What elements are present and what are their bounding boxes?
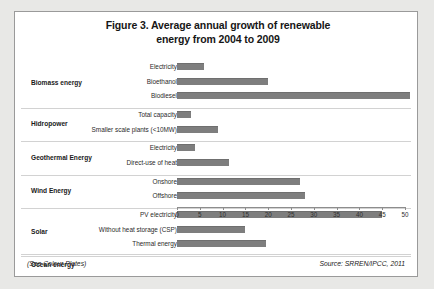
x-axis-tick-label: 10 — [219, 211, 226, 218]
x-axis-tick — [245, 207, 246, 210]
bar-row: Offshore — [15, 191, 417, 200]
bar-track — [177, 126, 218, 133]
group-divider — [21, 208, 411, 209]
x-axis-tick-label: 15 — [242, 211, 249, 218]
bar-row: Thermal energy — [15, 239, 417, 248]
x-axis-tick-label: 20 — [265, 211, 272, 218]
bar-track — [177, 240, 266, 247]
x-axis-tick-label: 30 — [310, 211, 317, 218]
bar-row: Electricity — [15, 62, 417, 71]
bar-row: Without heat storage (CSP) — [15, 225, 417, 234]
bar-row: Total capacity — [15, 110, 417, 119]
bar-category-label: Onshore — [17, 177, 177, 186]
bar-track — [177, 226, 245, 233]
footer-divider — [21, 254, 411, 255]
bar-fill — [177, 178, 300, 185]
bar-row: Electricity — [15, 143, 417, 152]
bar-track — [177, 63, 204, 70]
group-label: Wind Energy — [31, 187, 71, 194]
x-axis-tick — [405, 207, 406, 210]
bar-row: Biodiesel — [15, 91, 417, 100]
group-label: Hidropower — [31, 120, 68, 127]
bar-fill — [177, 226, 245, 233]
bar-category-label: Thermal energy — [17, 239, 177, 248]
bar-fill — [177, 211, 382, 218]
bar-track — [177, 211, 382, 218]
source-note: Source: SRREN/IPCC, 2011 — [319, 260, 405, 267]
group-label: Geothermal Energy — [31, 154, 92, 161]
bar-fill — [177, 192, 305, 199]
bar-track — [177, 192, 305, 199]
see-colour-plates-note: (See Colour Plates) — [27, 260, 86, 267]
bar-category-label: PV electricity — [17, 210, 177, 219]
bar-category-label: Total capacity — [17, 110, 177, 119]
figure-title-line-2: energy from 2004 to 2009 — [63, 32, 373, 46]
group-divider — [21, 141, 411, 142]
group-divider — [21, 108, 411, 109]
bar-category-label: Electricity — [17, 143, 177, 152]
chart-plot-area: ElectricityBioethanolBiodieselBiomass en… — [15, 56, 417, 252]
bar-category-label: Biodiesel — [17, 91, 177, 100]
bar-row: Onshore — [15, 177, 417, 186]
figure-title: Figure 3. Average annual growth of renew… — [63, 18, 373, 46]
figure-title-line-1: Figure 3. Average annual growth of renew… — [63, 18, 373, 32]
group-label: Biomass energy — [31, 79, 82, 86]
group-divider — [21, 256, 411, 257]
bar-track — [177, 111, 191, 118]
bar-fill — [177, 159, 229, 166]
bar-track — [177, 78, 268, 85]
x-axis-tick-label: 5 — [198, 211, 202, 218]
x-axis-tick — [382, 207, 383, 210]
x-axis-tick — [177, 207, 178, 210]
x-axis-tick — [359, 207, 360, 210]
x-axis-tick-label: 45 — [379, 211, 386, 218]
x-axis-tick-label: 35 — [333, 211, 340, 218]
x-axis-tick — [268, 207, 269, 210]
x-axis-tick-label: 40 — [356, 211, 363, 218]
bar-category-label: Electricity — [17, 62, 177, 71]
bar-fill — [177, 92, 410, 99]
bar-track — [177, 144, 195, 151]
bar-fill — [177, 78, 268, 85]
x-axis: 05101520253035404550 — [177, 207, 405, 208]
group-label: Solar — [31, 228, 48, 235]
bar-fill — [177, 63, 204, 70]
group-divider — [21, 175, 411, 176]
bar-track — [177, 159, 229, 166]
bar-fill — [177, 111, 191, 118]
x-axis-tick-label: 50 — [401, 211, 408, 218]
x-axis-tick-label: 25 — [287, 211, 294, 218]
x-axis-tick-label: 0 — [175, 211, 179, 218]
x-axis-tick — [291, 207, 292, 210]
bar-fill — [177, 144, 195, 151]
figure-frame: Figure 3. Average annual growth of renew… — [14, 11, 418, 277]
x-axis-tick — [200, 207, 201, 210]
bar-fill — [177, 126, 218, 133]
x-axis-tick — [314, 207, 315, 210]
bar-fill — [177, 240, 266, 247]
x-axis-tick — [337, 207, 338, 210]
bar-track — [177, 178, 300, 185]
bar-row: Smaller scale plants (<10MW) — [15, 125, 417, 134]
bar-track — [177, 92, 410, 99]
x-axis-tick — [223, 207, 224, 210]
